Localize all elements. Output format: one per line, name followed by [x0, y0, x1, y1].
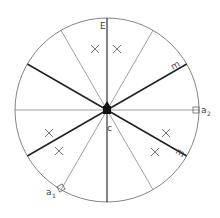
label-a2-sub: 2	[207, 110, 211, 117]
circle-diagram: E c m m a 2 a 1	[0, 0, 220, 218]
label-center: c	[107, 123, 112, 133]
label-a2: a	[201, 105, 207, 115]
label-lower-right: m	[174, 146, 187, 159]
label-top: E	[100, 21, 106, 31]
label-upper-right: m	[169, 59, 182, 72]
center-hub	[103, 106, 111, 114]
label-a1-sub: 1	[52, 192, 56, 199]
label-a1: a	[46, 187, 52, 197]
